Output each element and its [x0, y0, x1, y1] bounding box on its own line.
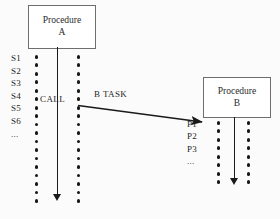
- procedure-b-dot-column-right: [246, 121, 251, 184]
- flow-dot: [77, 131, 81, 135]
- procedure-a-step-label-3: S4: [11, 90, 21, 103]
- flow-dot: [35, 140, 39, 144]
- procedure-a-title-line1: Procedure: [43, 15, 82, 27]
- flow-dot: [77, 80, 81, 84]
- flow-dot: [217, 163, 221, 167]
- procedure-a-step-label-1: S2: [11, 65, 21, 78]
- flow-dot: [217, 172, 221, 176]
- flow-dot: [217, 180, 221, 184]
- flow-dot: [35, 191, 39, 195]
- flow-dot: [77, 165, 81, 169]
- flow-dot: [35, 72, 39, 76]
- b-task-label: B TASK: [94, 89, 127, 99]
- diagram-canvas: Procedure A Procedure B S1S2S3S4S5S6... …: [0, 0, 280, 219]
- procedure-b-step-label-0: P1: [187, 118, 197, 130]
- flow-dot: [77, 148, 81, 152]
- flow-dot: [77, 89, 81, 93]
- procedure-a-step-label-0: S1: [11, 52, 21, 65]
- procedure-a-step-label-5: S6: [11, 115, 21, 128]
- flow-dot: [77, 123, 81, 127]
- flow-dot: [77, 174, 81, 178]
- flow-dot: [35, 131, 39, 135]
- procedure-b-flow-arrowhead-icon: [230, 178, 238, 185]
- flow-dot: [77, 114, 81, 118]
- flow-dot: [35, 89, 39, 93]
- procedure-a-flow-line: [57, 47, 59, 195]
- procedure-a-flow-arrowhead-icon: [53, 194, 61, 201]
- flow-dot: [247, 138, 251, 142]
- procedure-a-step-label-6: ...: [11, 128, 21, 141]
- procedure-b-flow-line: [234, 117, 236, 179]
- procedure-a-dot-column-right: [76, 55, 81, 203]
- flow-dot: [35, 63, 39, 67]
- procedure-b-box: Procedure B: [203, 77, 271, 118]
- flow-dot: [77, 140, 81, 144]
- flow-dot: [35, 80, 39, 84]
- call-label: CALL: [40, 94, 65, 104]
- flow-dot: [247, 163, 251, 167]
- flow-dot: [247, 180, 251, 184]
- flow-dot: [247, 121, 251, 125]
- flow-dot: [35, 106, 39, 110]
- flow-dot: [35, 55, 39, 59]
- flow-dot: [35, 165, 39, 169]
- flow-dot: [35, 199, 39, 203]
- flow-dot: [77, 182, 81, 186]
- flow-dot: [35, 114, 39, 118]
- flow-dot: [35, 174, 39, 178]
- procedure-a-dot-column-left: [34, 55, 39, 203]
- flow-dot: [77, 191, 81, 195]
- flow-dot: [77, 72, 81, 76]
- flow-dot: [247, 155, 251, 159]
- flow-dot: [217, 138, 221, 142]
- flow-dot: [35, 182, 39, 186]
- procedure-a-step-label-4: S5: [11, 102, 21, 115]
- flow-dot: [77, 157, 81, 161]
- procedure-b-step-label-1: P2: [187, 130, 197, 142]
- flow-dot: [247, 146, 251, 150]
- procedure-b-title-line1: Procedure: [218, 86, 257, 98]
- flow-dot: [77, 63, 81, 67]
- flow-dot: [35, 123, 39, 127]
- flow-dot: [77, 55, 81, 59]
- procedure-a-step-label-2: S3: [11, 77, 21, 90]
- flow-dot: [247, 129, 251, 133]
- procedure-b-step-label-3: ...: [187, 155, 197, 167]
- flow-dot: [217, 121, 221, 125]
- procedure-a-box: Procedure A: [28, 5, 96, 49]
- flow-dot: [217, 155, 221, 159]
- procedure-b-step-label-2: P3: [187, 143, 197, 155]
- flow-dot: [217, 146, 221, 150]
- flow-dot: [217, 129, 221, 133]
- flow-dot: [77, 106, 81, 110]
- flow-dot: [77, 199, 81, 203]
- procedure-b-dot-column-left: [216, 121, 221, 184]
- flow-dot: [77, 97, 81, 101]
- procedure-a-step-labels: S1S2S3S4S5S6...: [11, 52, 21, 140]
- flow-dot: [35, 97, 39, 101]
- procedure-b-step-labels: P1P2P3...: [187, 118, 197, 168]
- procedure-a-title-line2: A: [59, 27, 66, 39]
- flow-dot: [35, 148, 39, 152]
- flow-dot: [247, 172, 251, 176]
- procedure-b-title-line2: B: [234, 98, 240, 110]
- flow-dot: [35, 157, 39, 161]
